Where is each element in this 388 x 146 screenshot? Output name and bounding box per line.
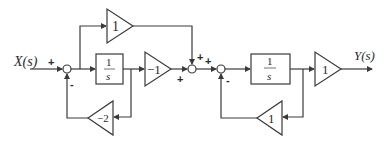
feedback-gain1-value: −2 [97, 112, 109, 124]
integrator1-denominator: s [106, 70, 110, 82]
sum2-left-plus-sign: + [177, 73, 183, 85]
sum3-left-plus-sign: + [205, 55, 211, 67]
gain-neg1-value: −1 [147, 62, 161, 77]
feedforward-gain-value: 1 [112, 19, 119, 34]
block-diagram: X(s) + - 1 1 s −1 + −2 + + - 1 s 1 [0, 0, 388, 146]
sum3-minus-sign: - [226, 74, 230, 86]
sum-junction-3 [217, 65, 225, 73]
sum2-top-plus-sign: + [197, 51, 203, 63]
feedforward-gain-block [107, 9, 133, 43]
sum-junction-1 [63, 65, 71, 73]
wire-feedforward-to-sum2 [133, 26, 192, 64]
output-label: Y(s) [354, 48, 375, 63]
integrator2-numerator: 1 [267, 55, 273, 67]
integrator1-numerator: 1 [106, 56, 112, 68]
output-gain-value: 1 [322, 62, 329, 77]
input-label: X(s) [13, 54, 38, 70]
sum1-minus-sign: - [70, 78, 74, 90]
sum1-plus-sign: + [48, 56, 54, 68]
sum-junction-2 [188, 65, 196, 73]
feedback-gain2-value: 1 [268, 111, 275, 126]
integrator2-denominator: s [267, 70, 271, 82]
